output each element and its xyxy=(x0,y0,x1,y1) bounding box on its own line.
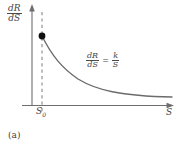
equation-lhs-fraction: dR dS xyxy=(86,52,99,69)
equation-lhs-denominator: dS xyxy=(86,61,99,69)
equation-equals-sign: = xyxy=(99,57,112,65)
y-axis-label-fraction: dR dS xyxy=(7,4,22,23)
equation-rhs-fraction: k S xyxy=(112,52,119,69)
y-axis-arrowhead xyxy=(29,4,35,12)
y-axis-label: dR dS xyxy=(7,4,22,23)
figure-caption: (a) xyxy=(8,130,20,140)
y-axis-label-denominator: dS xyxy=(7,14,22,23)
figure-panel-a: dR dS dR dS = k S S0 S (a) xyxy=(0,0,181,150)
s0-curve-point-marker xyxy=(39,33,46,40)
decay-curve-chart xyxy=(0,0,181,150)
curve-equation-annotation: dR dS = k S xyxy=(86,52,119,69)
x-axis-tick-label-s0-subscript: 0 xyxy=(42,111,46,118)
x-axis-label: S xyxy=(166,108,172,117)
x-axis-tick-label-s0: S0 xyxy=(36,107,46,118)
equation-rhs-denominator: S xyxy=(112,61,119,69)
y-axis xyxy=(29,4,35,106)
